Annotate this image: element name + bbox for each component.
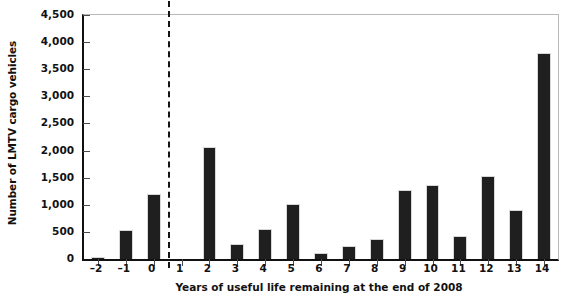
x-axis-tick-label: –1 [118, 262, 131, 274]
y-axis-tick-label: 500 [52, 225, 74, 237]
bar-3 [230, 244, 244, 259]
x-axis-tick-label: 9 [399, 262, 406, 274]
y-axis-title: Number of LMTV cargo vehicles [0, 0, 24, 266]
x-axis-tick-label: 6 [315, 262, 322, 274]
bar-2 [203, 147, 217, 259]
x-axis-tick-labels: –2–101234567891011121314 [82, 262, 556, 278]
y-axis-title-text: Number of LMTV cargo vehicles [6, 41, 18, 225]
y-axis-tick-label: 1,000 [41, 198, 74, 210]
x-axis-tick-label: 10 [423, 262, 438, 274]
bar-4 [258, 229, 272, 259]
x-axis-tick-label: 2 [204, 262, 211, 274]
x-axis-tick-label: 8 [371, 262, 378, 274]
x-axis-tick-label: 5 [287, 262, 294, 274]
y-axis-tick-mark [83, 178, 90, 179]
bar-14 [537, 53, 551, 259]
y-axis-tick-mark [83, 232, 90, 233]
y-axis-tick-mark [83, 42, 90, 43]
x-axis-tick-label: 14 [535, 262, 550, 274]
bar-7 [342, 246, 356, 259]
x-axis-tick-label: 7 [343, 262, 350, 274]
x-axis-title: Years of useful life remaining at the en… [82, 281, 556, 293]
bar-11 [453, 236, 467, 259]
y-axis-tick-label: 2,500 [41, 116, 74, 128]
bar-12 [481, 176, 495, 259]
bar-13 [509, 210, 523, 259]
x-axis-tick-label: 0 [148, 262, 155, 274]
y-axis-tick-label: 4,500 [41, 8, 74, 20]
y-axis-tick-label: 3,500 [41, 62, 74, 74]
x-axis-tick-label: 1 [176, 262, 183, 274]
y-axis-tick-mark [83, 151, 90, 152]
bar-0 [147, 194, 161, 259]
plot-area [82, 14, 559, 261]
y-axis-tick-mark [83, 69, 90, 70]
y-axis-tick-mark [83, 205, 90, 206]
bar--1 [119, 230, 133, 259]
y-axis-tick-label: 4,000 [41, 35, 74, 47]
x-axis-tick-label: –2 [90, 262, 103, 274]
x-axis-tick-label: 3 [232, 262, 239, 274]
y-axis-tick-mark [83, 96, 90, 97]
x-axis-tick-label: 13 [507, 262, 522, 274]
bar-5 [286, 204, 300, 259]
y-axis-tick-mark [83, 123, 90, 124]
plot-inner [84, 15, 558, 259]
bar-10 [426, 185, 440, 259]
bar-9 [398, 190, 412, 259]
y-axis-tick-label: 3,000 [41, 89, 74, 101]
x-axis-tick-label: 12 [479, 262, 494, 274]
x-axis-tick-label: 4 [260, 262, 267, 274]
y-axis-tick-label: 0 [67, 252, 74, 264]
x-axis-tick-label: 11 [451, 262, 466, 274]
divider-line [168, 1, 170, 268]
bar-8 [370, 239, 384, 259]
bar-chart-figure: Number of LMTV cargo vehicles 05001,0001… [0, 0, 566, 301]
y-axis-tick-label: 2,000 [41, 144, 74, 156]
y-axis-tick-labels: 05001,0001,5002,0002,5003,0003,5004,0004… [24, 0, 80, 266]
y-axis-tick-mark [83, 15, 90, 16]
y-axis-tick-label: 1,500 [41, 171, 74, 183]
